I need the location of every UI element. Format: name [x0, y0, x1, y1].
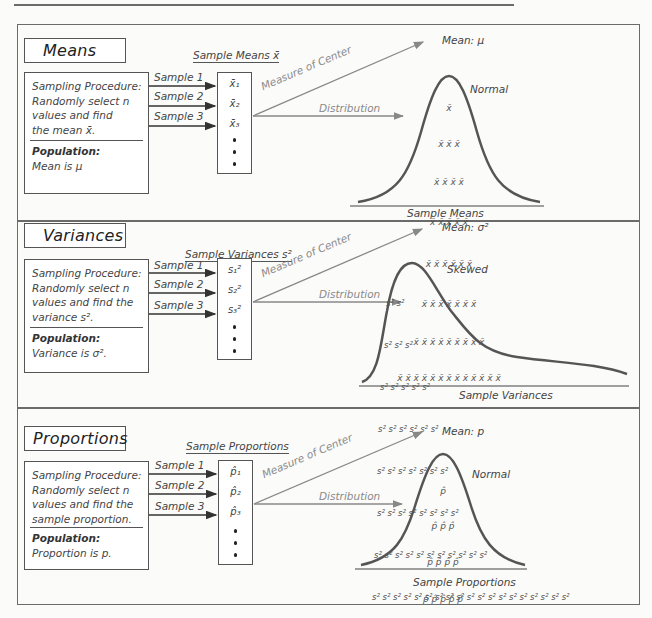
glyph-row: s² s²	[386, 296, 570, 310]
axis-label: Sample Variances	[459, 389, 553, 401]
glyph-row: p̂ p̂ p̂ p̂ p̂	[363, 594, 523, 606]
panel-proportions: Proportions Sample Proportions Sampling …	[17, 408, 640, 605]
glyph-row: p̂ p̂ p̂ p̂	[363, 557, 523, 569]
mean-label: Mean: μ	[442, 34, 484, 46]
glyph-row: x̄	[369, 102, 529, 114]
glyph-row: s² s² s²	[384, 338, 570, 352]
glyph-row: p̂ p̂ p̂	[363, 521, 523, 533]
sampling-distribution-glyphs: p̂ p̂ p̂ p̂ p̂ p̂ p̂ p̂ p̂ p̂ p̂ p̂ p̂ p…	[363, 463, 523, 618]
mean-label: Mean: p	[442, 425, 484, 437]
panel-means: Means Sample Means x̄ Sampling Procedure…	[17, 24, 640, 220]
glyph-row: x̄ x̄ x̄ x̄	[369, 176, 529, 188]
proportions-arrows-and-curve	[17, 408, 640, 605]
glyph-row: x̄ x̄ x̄	[369, 138, 529, 150]
mean-label: Mean: σ²	[442, 221, 488, 233]
axis-label: Sample Proportions	[413, 576, 516, 588]
axis-label: Sample Means	[407, 207, 484, 219]
panel-variances: Variances Sample Variances s² Sampling P…	[17, 221, 640, 407]
glyph-row: p̂	[363, 486, 523, 498]
top-rule	[14, 4, 514, 6]
